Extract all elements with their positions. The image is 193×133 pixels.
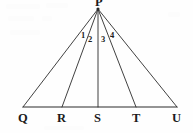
vertex-label-q: Q <box>18 112 28 125</box>
segment-pr <box>62 9 98 107</box>
angle-label-4: 4 <box>110 31 114 40</box>
segment-pt <box>98 9 136 107</box>
vertex-label-u: U <box>172 112 181 125</box>
angle-label-3: 3 <box>101 35 105 44</box>
segment-pq <box>23 9 98 107</box>
apex-label-p: P <box>95 0 103 9</box>
segment-pu <box>98 9 177 107</box>
vertex-label-s: S <box>94 112 101 125</box>
geometry-figure: P 1 2 3 4 Q R S T U <box>0 0 193 133</box>
vertex-label-r: R <box>57 112 66 125</box>
angle-label-1: 1 <box>81 31 85 40</box>
vertex-label-t: T <box>132 112 141 125</box>
angle-label-2: 2 <box>88 35 92 44</box>
